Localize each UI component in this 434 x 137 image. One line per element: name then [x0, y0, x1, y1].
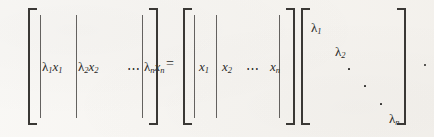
- x-subscript: 2: [228, 65, 232, 75]
- bracket-arm-top: [149, 8, 158, 10]
- equals-sign: =: [166, 57, 174, 71]
- bracket-arm-bottom: [301, 123, 310, 125]
- diagonal-entry-1: λ1: [311, 21, 322, 36]
- bracket-arm-bottom: [397, 123, 406, 125]
- left-matrix-open-bracket: [28, 8, 37, 125]
- left-matrix-entry-1: λ1x1: [42, 60, 63, 75]
- bracket-stem: [28, 8, 30, 125]
- x-subscript: 2: [94, 65, 98, 75]
- bracket-stem: [404, 8, 406, 125]
- middle-matrix-ellipsis: ⋯: [246, 62, 261, 75]
- bracket-stem: [156, 8, 158, 125]
- middle-matrix-entry-n: xn: [270, 60, 280, 75]
- column-separator-rule: [216, 15, 217, 118]
- diagonal-entry-2: λ2: [335, 45, 346, 60]
- bracket-arm-bottom: [183, 123, 192, 125]
- left-matrix: λ1x1 λ2x2 ⋯ λnxn: [28, 8, 158, 125]
- left-matrix-entry-2: λ2x2: [78, 60, 99, 75]
- bracket-arm-bottom: [149, 123, 158, 125]
- bracket-arm-top: [28, 8, 37, 10]
- lambda-subscript: 1: [317, 26, 321, 36]
- diagonal-matrix-open-bracket: [301, 8, 310, 125]
- bracket-stem: [183, 8, 185, 125]
- middle-matrix: x1 x2 ⋯ xn: [183, 8, 295, 125]
- x-subscript: 1: [205, 65, 209, 75]
- middle-matrix-entry-2: x2: [222, 60, 232, 75]
- left-matrix-close-bracket: [149, 8, 158, 125]
- middle-matrix-entry-1: x1: [199, 60, 209, 75]
- middle-matrix-close-bracket: [286, 8, 295, 125]
- x-subscript: n: [160, 65, 164, 75]
- column-separator-rule: [142, 15, 143, 118]
- x-subscript: 1: [58, 65, 62, 75]
- column-separator-rule: [40, 15, 41, 118]
- diagonal-dot-1: [348, 68, 350, 70]
- left-matrix-ellipsis: ⋯: [127, 62, 142, 75]
- bracket-arm-top: [286, 8, 295, 10]
- trailing-period: [424, 64, 426, 66]
- x-subscript: n: [276, 65, 280, 75]
- bracket-stem: [293, 8, 295, 125]
- diagonal-matrix: λ1 λ2 λn: [301, 8, 406, 125]
- bracket-arm-top: [301, 8, 310, 10]
- column-separator-rule: [194, 15, 195, 118]
- middle-matrix-open-bracket: [183, 8, 192, 125]
- diagonal-dot-2: [364, 85, 366, 87]
- equation-figure: λ1x1 λ2x2 ⋯ λnxn = x1 x2: [0, 0, 434, 137]
- bracket-stem: [301, 8, 303, 125]
- bracket-arm-top: [183, 8, 192, 10]
- lambda-subscript: 2: [341, 50, 345, 60]
- bracket-arm-bottom: [286, 123, 295, 125]
- column-separator-rule: [76, 15, 77, 118]
- diagonal-matrix-close-bracket: [397, 8, 406, 125]
- bracket-arm-bottom: [28, 123, 37, 125]
- diagonal-dot-3: [380, 103, 382, 105]
- bracket-arm-top: [397, 8, 406, 10]
